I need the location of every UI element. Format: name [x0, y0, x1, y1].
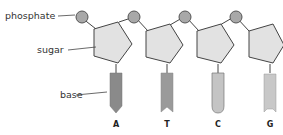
sugar-label: sugar: [37, 44, 64, 55]
sugar-pentagon: [197, 24, 234, 63]
phosphate-circle: [230, 11, 242, 23]
base-label: base: [60, 89, 83, 100]
bases-group: [110, 73, 276, 113]
phosphate-label: phosphate: [5, 10, 55, 21]
base-g-shape: [264, 74, 276, 112]
phosphate-circle: [179, 11, 191, 23]
base-t-shape: [161, 73, 173, 112]
base-c-shape: [212, 73, 224, 113]
base-letter-t: T: [159, 120, 175, 129]
base-letter-a: A: [108, 120, 124, 129]
phosphate-circle: [128, 11, 140, 23]
sugar-pentagon: [146, 24, 183, 63]
sugar-group: [94, 22, 283, 63]
dna-diagram: phosphate sugar base A T C G: [0, 0, 283, 135]
base-a-shape: [110, 73, 122, 113]
phosphate-circle: [76, 11, 88, 23]
sugar-pentagon: [249, 24, 283, 63]
sugar-pentagon: [94, 22, 132, 63]
base-letter-c: C: [210, 120, 226, 129]
base-letter-g: G: [262, 120, 278, 129]
phosphate-group: [76, 11, 242, 23]
